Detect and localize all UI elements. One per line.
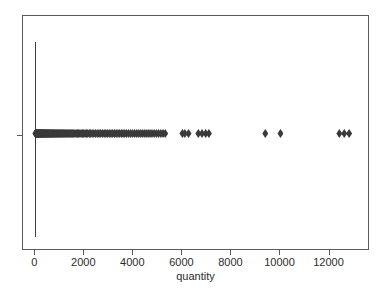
x-tick-mark bbox=[34, 250, 35, 255]
strip-plot-figure: 020004000600080001000012000 quantity bbox=[0, 0, 391, 307]
x-tick-mark bbox=[279, 250, 280, 255]
data-point bbox=[277, 129, 283, 138]
x-tick-mark bbox=[83, 250, 84, 255]
data-point-layer bbox=[23, 16, 368, 249]
x-tick-mark bbox=[132, 250, 133, 255]
data-point bbox=[206, 129, 212, 138]
x-axis-title: quantity bbox=[0, 270, 391, 282]
x-tick-mark bbox=[230, 250, 231, 255]
x-tick-mark bbox=[329, 250, 330, 255]
x-tick-label: 8000 bbox=[218, 256, 242, 268]
data-point bbox=[346, 129, 352, 138]
x-tick-label: 4000 bbox=[120, 256, 144, 268]
x-tick-label: 6000 bbox=[169, 256, 193, 268]
x-tick-label: 2000 bbox=[71, 256, 95, 268]
x-tick-mark bbox=[181, 250, 182, 255]
plot-axes-frame bbox=[22, 15, 369, 250]
data-point bbox=[186, 129, 192, 138]
x-tick-label: 12000 bbox=[313, 256, 344, 268]
x-tick-label: 10000 bbox=[264, 256, 295, 268]
x-tick-label: 0 bbox=[31, 256, 37, 268]
data-point bbox=[262, 129, 268, 138]
